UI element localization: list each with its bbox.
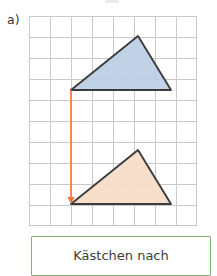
translation-arrow <box>67 90 74 204</box>
grid-svg <box>29 16 197 226</box>
answer-box[interactable]: Kästchen nach <box>31 236 211 276</box>
cropped-top-artifact <box>105 0 119 3</box>
part-label: a) <box>7 14 20 27</box>
grid-canvas <box>29 16 197 226</box>
answer-box-label: Kästchen nach <box>32 249 210 262</box>
